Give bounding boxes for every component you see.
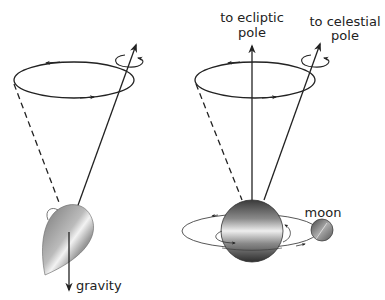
dashed-cone-edge [14, 84, 60, 205]
orbit-arrow-bottom [296, 244, 305, 246]
ecliptic-label-line2: pole [238, 25, 266, 40]
spinning-top-panel: gravity [14, 45, 143, 293]
precession-circle [14, 62, 134, 98]
earth-precession-circle [195, 62, 315, 98]
precession-diagram: gravity to ecliptic pole to celestial po… [0, 0, 385, 300]
celestial-pole-axis [264, 44, 320, 200]
earth-panel: to ecliptic pole to celestial pole moon [182, 10, 381, 262]
spinning-top-body [42, 205, 93, 275]
earth-precession-arrow-bottom [262, 97, 276, 98]
earth-rotation-arrow-right [283, 225, 290, 242]
ecliptic-label-line1: to ecliptic [220, 10, 284, 25]
moon-label: moon [305, 205, 342, 220]
celestial-label-line1: to celestial [310, 14, 381, 29]
earth-globe [221, 200, 283, 262]
spin-axis [77, 45, 136, 208]
earth-dashed-cone-edge [196, 84, 242, 200]
celestial-label-line2: pole [331, 28, 359, 43]
gravity-label: gravity [76, 278, 122, 293]
